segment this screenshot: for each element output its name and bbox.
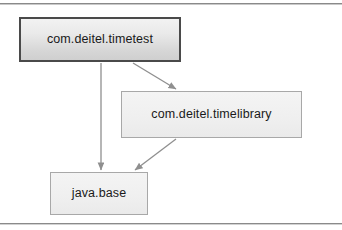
frame-bottom-border-shadow [0,224,342,225]
module-node-timetest-label: com.deitel.timetest [47,33,153,46]
module-node-javabase[interactable]: java.base [50,172,148,215]
module-node-javabase-label: java.base [72,187,126,200]
module-node-timelibrary[interactable]: com.deitel.timelibrary [121,91,302,138]
frame-top-border-shadow [0,4,342,5]
edge-timetest-to-timelibrary [133,63,176,89]
module-diagram-canvas: com.deitel.timetest com.deitel.timelibra… [0,0,342,230]
module-node-timetest[interactable]: com.deitel.timetest [19,17,181,62]
module-node-timelibrary-label: com.deitel.timelibrary [151,108,271,121]
edge-timelibrary-to-javabase [135,139,176,170]
